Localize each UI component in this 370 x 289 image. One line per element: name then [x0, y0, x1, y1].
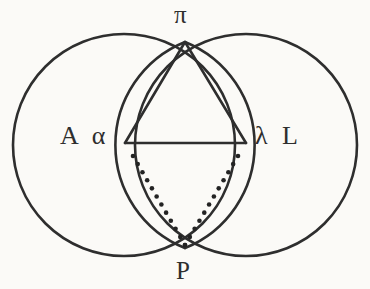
right-circle: [135, 34, 357, 256]
lens-right-arc: [185, 42, 255, 248]
bottom-point-label: P: [176, 258, 190, 283]
right-point-label: λ L: [255, 123, 302, 149]
apex-label: π: [174, 2, 187, 27]
geometry-figure: [0, 0, 370, 289]
lens-left-arc: [115, 42, 185, 248]
triangle-left-side: [125, 42, 185, 143]
triangle-right-side: [185, 42, 246, 143]
diagram-canvas: π A α λ L P: [0, 0, 370, 289]
left-point-label: A α: [60, 123, 109, 149]
